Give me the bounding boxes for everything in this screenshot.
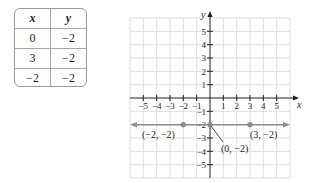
svg-text:3: 3	[248, 101, 253, 111]
svg-text:1: 1	[202, 80, 207, 90]
svg-text:5: 5	[274, 101, 279, 111]
point-label-0-neg2: (0, −2)	[221, 143, 248, 155]
x-axis-label: x	[296, 99, 302, 110]
svg-text:−3: −3	[196, 133, 206, 143]
svg-text:5: 5	[202, 27, 207, 37]
svg-text:−4: −4	[152, 101, 162, 111]
svg-text:2: 2	[234, 101, 239, 111]
y-axis-label: y	[200, 9, 206, 20]
svg-text:−1: −1	[196, 107, 206, 117]
line-left-arrow-icon	[130, 122, 137, 127]
point-neg2-neg2	[181, 122, 186, 127]
svg-text:1: 1	[221, 101, 226, 111]
point-label-3-neg2: (3, −2)	[250, 129, 277, 141]
point-3-neg2	[247, 122, 252, 127]
coordinate-plane: −5 −4 −3 −2 −1 1 2 3 4 5 x 5 4 3 2 1 −1 …	[0, 0, 317, 183]
svg-text:−2: −2	[179, 101, 189, 111]
svg-text:2: 2	[202, 67, 207, 77]
line-right-arrow-icon	[283, 122, 290, 127]
svg-text:3: 3	[202, 53, 207, 63]
svg-text:−5: −5	[196, 160, 206, 170]
svg-text:−4: −4	[196, 147, 206, 157]
svg-text:4: 4	[261, 101, 266, 111]
x-tick-labels: −5 −4 −3 −2 −1 1 2 3 4 5	[139, 101, 280, 111]
label-leader-line	[211, 126, 223, 142]
svg-text:−5: −5	[139, 101, 149, 111]
svg-text:4: 4	[202, 40, 207, 50]
svg-text:−3: −3	[165, 101, 175, 111]
point-label-neg2-neg2: (−2, −2)	[142, 129, 175, 141]
y-axis-arrow-icon	[208, 11, 213, 17]
axes	[130, 11, 299, 178]
